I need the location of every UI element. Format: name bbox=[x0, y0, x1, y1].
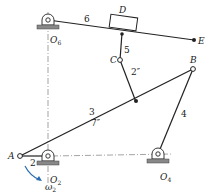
label-c: C bbox=[110, 55, 117, 65]
ground-pivot-o2 bbox=[37, 150, 59, 165]
link-5 bbox=[120, 33, 122, 60]
label-e: E bbox=[197, 36, 205, 46]
joint-c bbox=[118, 58, 123, 63]
label-o6: O6 bbox=[50, 35, 61, 46]
joint-d-bottom bbox=[120, 32, 124, 36]
slider-d bbox=[109, 14, 138, 31]
joint-b bbox=[191, 67, 196, 72]
label-link-3: 3 bbox=[89, 107, 95, 117]
ground-pivot-o4 bbox=[147, 148, 169, 163]
point-e bbox=[192, 38, 196, 42]
label-d: D bbox=[118, 5, 126, 15]
link-4 bbox=[158, 69, 193, 154]
label-link-5: 5 bbox=[124, 45, 130, 55]
mechanism-diagram: O6 O2 O4 A B C D E 2 3 7″ 4 5 2″ 6 ω2 bbox=[0, 0, 211, 194]
label-link-6: 6 bbox=[84, 14, 90, 24]
label-o4: O4 bbox=[160, 172, 171, 183]
label-link-3-length: 7″ bbox=[91, 118, 101, 128]
link-3 bbox=[20, 69, 193, 156]
label-link-5-length: 2″ bbox=[131, 67, 141, 77]
joint-on-link-3 bbox=[134, 99, 138, 103]
joint-a bbox=[18, 154, 23, 159]
label-link-2: 2 bbox=[30, 158, 36, 168]
label-b: B bbox=[189, 55, 197, 65]
label-a: A bbox=[7, 151, 15, 161]
label-link-4: 4 bbox=[181, 109, 187, 119]
